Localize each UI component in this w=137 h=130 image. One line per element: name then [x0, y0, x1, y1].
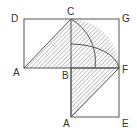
label-C: C: [67, 6, 74, 17]
label-F: F: [122, 64, 128, 75]
label-G: G: [122, 13, 130, 24]
label-A-bottom: A: [63, 118, 70, 129]
label-E: E: [122, 118, 129, 129]
label-D: D: [11, 13, 18, 24]
label-B: B: [62, 70, 69, 81]
label-A-left: A: [13, 67, 20, 78]
geometry-diagram: D C G A B F A E: [0, 0, 137, 130]
